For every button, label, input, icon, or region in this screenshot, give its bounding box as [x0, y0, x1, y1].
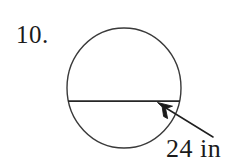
- geometry-figure-container: 10. 24 in: [0, 0, 245, 163]
- circle-outline: [67, 28, 181, 148]
- problem-number-label: 10.: [16, 22, 49, 47]
- measurement-label: 24 in: [166, 136, 221, 162]
